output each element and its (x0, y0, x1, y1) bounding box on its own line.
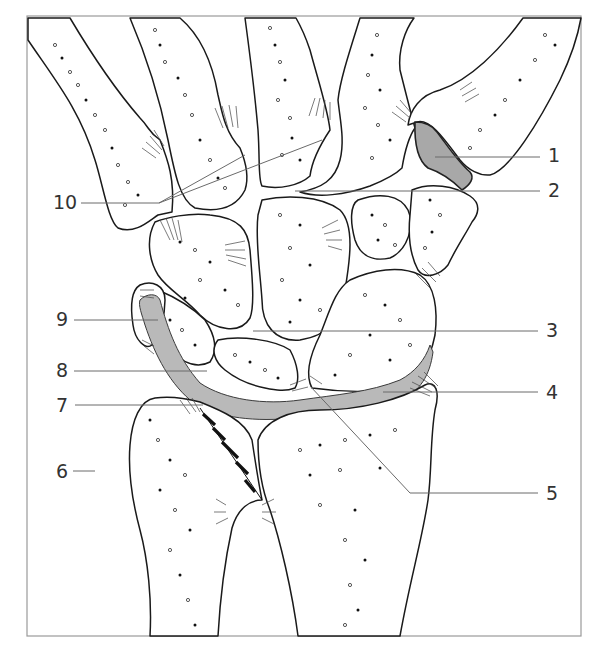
forearm-bones (129, 384, 437, 636)
radius (258, 384, 437, 636)
callout-6: 6 (56, 460, 95, 482)
lunate (214, 338, 298, 390)
trapezium (409, 186, 477, 276)
trapezoid (352, 196, 411, 259)
callout-label: 4 (546, 381, 558, 403)
callout-label: 2 (548, 179, 560, 201)
callout-label: 7 (56, 394, 68, 416)
callout-label: 9 (56, 308, 68, 330)
callout-label: 1 (548, 144, 560, 166)
ulna (129, 397, 262, 636)
callout-label: 3 (546, 319, 558, 341)
metacarpal-3 (245, 18, 330, 187)
callout-label: 6 (56, 460, 68, 482)
wrist-anatomy-diagram: 12345678910 (0, 0, 596, 660)
callout-label: 5 (546, 482, 558, 504)
callout-label: 8 (56, 359, 68, 381)
callout-label: 10 (53, 191, 77, 213)
